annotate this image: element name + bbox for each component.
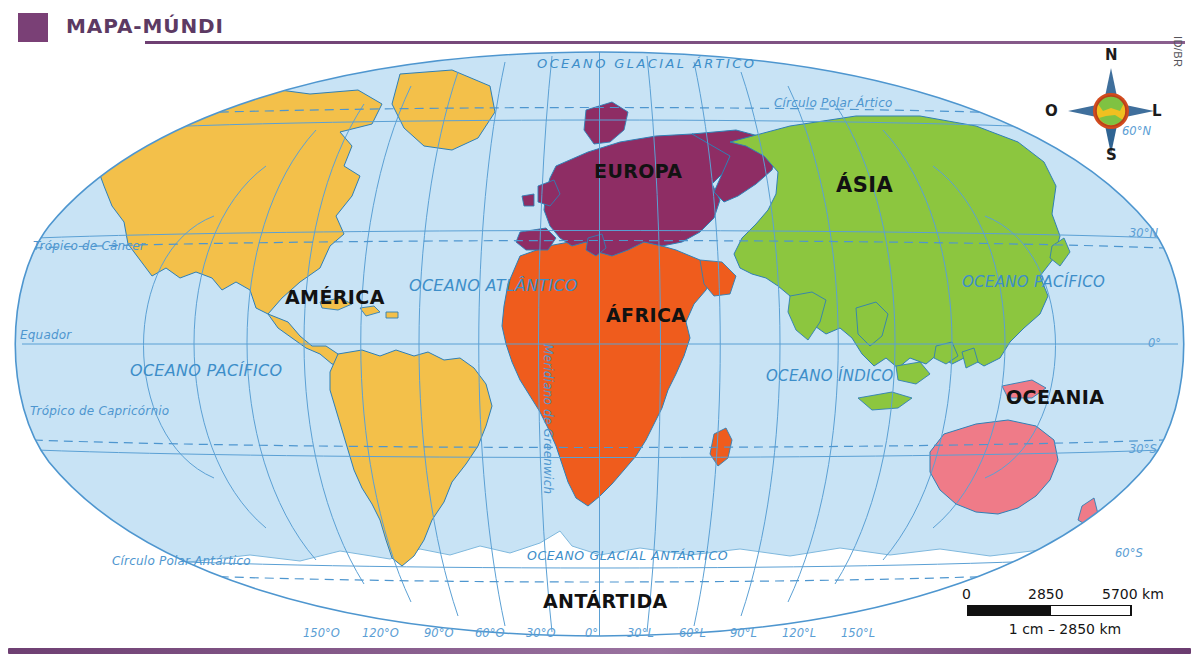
compass-label-east: L <box>1152 102 1162 120</box>
scale-bar-fill <box>968 606 1050 615</box>
footer-rule <box>8 648 1191 654</box>
scale-caption: 1 cm – 2850 km <box>965 621 1165 637</box>
compass-label-west: O <box>1045 102 1058 120</box>
header-rule <box>145 41 1185 44</box>
scale-mark-mid <box>1049 605 1051 616</box>
scale-tick-0: 0 <box>962 586 971 602</box>
scale-numbers: 0 2850 5700 km <box>962 586 1180 603</box>
scale-mark-left <box>967 605 969 616</box>
scale-tick-5700: 5700 km <box>1102 586 1164 602</box>
map-svg <box>0 46 1199 642</box>
ocean-body <box>0 46 1199 642</box>
compass-rose: N S O L <box>1052 52 1170 170</box>
header-color-swatch <box>18 13 48 42</box>
map-scale: 0 2850 5700 km 1 cm – 2850 km <box>962 586 1180 640</box>
world-map: AMÉRICA EUROPA ÁSIA ÁFRICA OCEANIA ANTÁR… <box>0 46 1199 642</box>
scale-mark-right <box>1130 605 1132 616</box>
scale-tick-2850: 2850 <box>1028 586 1064 602</box>
compass-label-north: N <box>1105 46 1118 64</box>
map-page: MAPA-MÚNDI ID/BR <box>0 0 1199 660</box>
page-title: MAPA-MÚNDI <box>66 14 224 38</box>
compass-label-south: S <box>1106 146 1117 164</box>
